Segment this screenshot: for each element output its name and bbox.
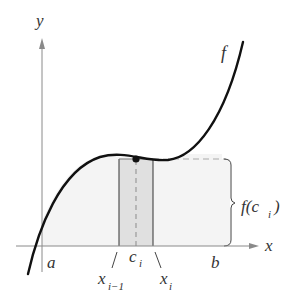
x-axis-arrow-icon [249,243,259,249]
label-b: b [211,253,220,272]
label-height-sub: i [268,208,271,220]
label-xprev: x [97,269,106,288]
label-height-close: ) [273,197,280,216]
y-axis-label: y [34,11,44,30]
curve-label-f: f [221,43,229,63]
label-c: c [129,247,137,266]
label-height: f(c [241,197,259,216]
ci-point [132,155,139,162]
y-axis-arrow-icon [39,38,45,49]
label-c-sub: i [139,257,142,269]
xprev-tick [112,252,117,268]
label-xi: x [159,269,168,288]
label-a: a [47,253,56,272]
riemann-diagram: y x f a b c i x i−1 x i f(c i ) [0,0,297,293]
xi-tick [155,252,161,268]
label-xprev-sub: i−1 [108,280,124,292]
label-xi-sub: i [169,280,172,292]
x-axis-label: x [264,236,273,255]
diagram-svg: y x f a b c i x i−1 x i f(c i ) [0,0,297,293]
area-region-right [160,159,230,246]
